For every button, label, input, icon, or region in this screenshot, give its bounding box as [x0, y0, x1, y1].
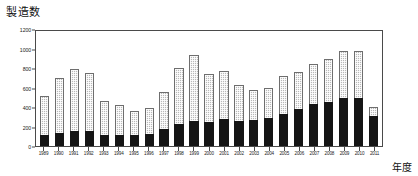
y-tick-label: 1000: [20, 47, 31, 53]
x-tick-label: 2000: [204, 151, 214, 156]
bar-segment-upper: [354, 51, 363, 98]
x-label-slot: 2001: [217, 151, 232, 163]
stacked-bar[interactable]: [249, 90, 258, 146]
bar-slot: [291, 31, 306, 146]
stacked-bar[interactable]: [174, 68, 183, 146]
x-tick-label: 2009: [340, 151, 350, 156]
x-tick-label: 2005: [279, 151, 289, 156]
x-tick-label: 2007: [310, 151, 320, 156]
bar-slot: [351, 31, 366, 146]
x-label-slot: 1992: [81, 151, 96, 163]
bar-slot: [216, 31, 231, 146]
x-tick-label: 1995: [129, 151, 139, 156]
x-label-slot: 2000: [202, 151, 217, 163]
stacked-bar[interactable]: [204, 74, 213, 146]
stacked-bar[interactable]: [324, 59, 333, 146]
bar-segment-lower: [264, 118, 273, 146]
x-axis: 1989199019911992199319941995199619971998…: [35, 147, 383, 163]
stacked-bar[interactable]: [189, 55, 198, 146]
bar-segment-upper: [159, 92, 168, 129]
stacked-bar[interactable]: [264, 88, 273, 146]
bar-slot: [336, 31, 351, 146]
x-tick-label: 1997: [159, 151, 169, 156]
bar-segment-upper: [189, 55, 198, 120]
stacked-bar[interactable]: [85, 73, 94, 146]
bar-segment-upper: [324, 59, 333, 102]
stacked-bar[interactable]: [219, 71, 228, 146]
x-tick-label: 1990: [54, 151, 64, 156]
stacked-bar[interactable]: [145, 108, 154, 146]
bar-series-container: [36, 31, 382, 146]
x-tick-label: 2004: [264, 151, 274, 156]
stacked-bar[interactable]: [354, 51, 363, 146]
bar-segment-lower: [40, 135, 49, 146]
bar-segment-lower: [159, 129, 168, 146]
x-tick-label: 2003: [249, 151, 259, 156]
bar-segment-lower: [324, 102, 333, 146]
stacked-bar[interactable]: [309, 64, 318, 146]
bar-segment-upper: [249, 90, 258, 119]
x-label-slot: 2011: [367, 151, 382, 163]
bar-slot: [231, 31, 246, 146]
bar-slot: [187, 31, 202, 146]
x-label-slot: 2008: [322, 151, 337, 163]
x-label-slot: 1990: [51, 151, 66, 163]
bar-slot: [306, 31, 321, 146]
stacked-bar[interactable]: [40, 96, 49, 146]
bar-segment-upper: [40, 96, 49, 135]
stacked-bar[interactable]: [234, 85, 243, 146]
x-tick-label: 2008: [325, 151, 335, 156]
y-axis: 020040060080010001200: [0, 30, 35, 147]
stacked-bar[interactable]: [100, 101, 109, 146]
bar-slot: [37, 31, 52, 146]
bar-segment-upper: [100, 101, 109, 135]
bar-segment-lower: [55, 133, 64, 146]
bar-segment-upper: [294, 72, 303, 109]
stacked-bar[interactable]: [55, 78, 64, 146]
x-tick-label: 1992: [84, 151, 94, 156]
bar-slot: [172, 31, 187, 146]
bar-segment-lower: [249, 120, 258, 146]
bar-segment-upper: [279, 76, 288, 114]
bar-segment-lower: [145, 134, 154, 146]
bar-segment-upper: [339, 51, 348, 98]
bar-segment-upper: [55, 78, 64, 134]
bar-segment-upper: [204, 74, 213, 122]
bar-slot: [321, 31, 336, 146]
stacked-bar[interactable]: [130, 111, 139, 146]
bar-slot: [276, 31, 291, 146]
x-label-slot: 2005: [277, 151, 292, 163]
bar-slot: [97, 31, 112, 146]
x-axis-title: 年度: [392, 159, 412, 174]
bar-segment-lower: [70, 131, 79, 146]
x-label-slot: 2006: [292, 151, 307, 163]
x-tick-label: 2010: [355, 151, 365, 156]
bar-segment-lower: [130, 135, 139, 146]
y-tick-label: 600: [23, 86, 31, 92]
bar-segment-upper: [115, 105, 124, 135]
stacked-bar[interactable]: [369, 107, 378, 146]
bar-slot: [261, 31, 276, 146]
bar-segment-lower: [100, 135, 109, 146]
x-tick-label: 1996: [144, 151, 154, 156]
stacked-bar[interactable]: [294, 72, 303, 146]
y-tick-label: 400: [23, 105, 31, 111]
bar-segment-lower: [279, 114, 288, 146]
x-label-slot: 2007: [307, 151, 322, 163]
x-tick-label: 1998: [174, 151, 184, 156]
stacked-bar[interactable]: [115, 105, 124, 146]
x-tick-label: 2001: [219, 151, 229, 156]
bar-segment-lower: [85, 131, 94, 146]
stacked-bar[interactable]: [70, 69, 79, 146]
stacked-bar[interactable]: [339, 51, 348, 146]
bar-segment-lower: [309, 104, 318, 146]
bar-slot: [246, 31, 261, 146]
stacked-bar[interactable]: [279, 76, 288, 146]
x-tick-label: 1989: [39, 151, 49, 156]
bar-slot: [52, 31, 67, 146]
stacked-bar[interactable]: [159, 92, 168, 146]
bar-segment-upper: [219, 71, 228, 119]
bar-segment-lower: [189, 121, 198, 146]
x-label-slot: 1994: [111, 151, 126, 163]
x-label-slot: 1998: [171, 151, 186, 163]
